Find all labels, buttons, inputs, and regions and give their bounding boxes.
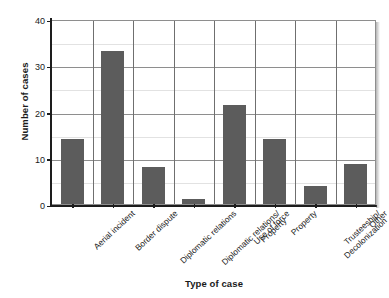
y-axis-title: Number of cases bbox=[19, 32, 30, 172]
y-axis-tick-label: 20 bbox=[35, 109, 45, 119]
x-axis-category-label: Property bbox=[289, 209, 319, 238]
gridline-vertical bbox=[295, 21, 296, 204]
x-axis-tick bbox=[113, 204, 115, 208]
bar bbox=[344, 164, 367, 204]
y-axis-tick bbox=[47, 159, 52, 161]
y-axis-tick-label: 10 bbox=[35, 155, 45, 165]
x-axis-category-label: Aerial incident bbox=[92, 209, 137, 252]
y-axis-tick bbox=[47, 206, 52, 208]
x-axis-category-label: Border dispute bbox=[133, 209, 179, 253]
x-axis-title: Type of case bbox=[52, 278, 376, 289]
bar bbox=[61, 139, 84, 204]
gridline-vertical bbox=[214, 21, 215, 204]
gridline-vertical bbox=[336, 21, 337, 204]
y-axis-tick-label: 0 bbox=[40, 201, 45, 211]
x-axis-tick bbox=[315, 204, 317, 208]
bar bbox=[263, 139, 286, 204]
x-axis-tick bbox=[72, 204, 74, 208]
y-axis-tick bbox=[47, 21, 52, 23]
x-axis-tick bbox=[234, 204, 236, 208]
y-axis-tick bbox=[47, 113, 52, 115]
x-axis-tick bbox=[194, 204, 196, 208]
gridline-vertical bbox=[255, 21, 256, 204]
plot-area: 010203040 bbox=[52, 20, 376, 205]
gridline-vertical bbox=[133, 21, 134, 204]
y-axis-tick-label: 30 bbox=[35, 62, 45, 72]
x-axis-tick bbox=[275, 204, 277, 208]
page-shadow bbox=[376, 22, 380, 208]
bar bbox=[142, 167, 165, 204]
y-axis-tick bbox=[47, 67, 52, 69]
bar bbox=[304, 186, 327, 205]
x-axis-tick bbox=[356, 204, 358, 208]
y-axis-tick-label: 40 bbox=[35, 16, 45, 26]
bar bbox=[101, 51, 124, 204]
gridline-vertical bbox=[93, 21, 94, 204]
bar bbox=[223, 105, 246, 204]
x-axis-tick bbox=[153, 204, 155, 208]
x-axis-line bbox=[50, 205, 377, 207]
gridline-vertical bbox=[174, 21, 175, 204]
